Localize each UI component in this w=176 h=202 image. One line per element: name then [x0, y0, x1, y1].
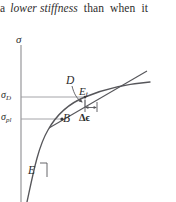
sigma-d-guide-line — [21, 97, 85, 108]
sigma-pl-label: σpl — [1, 112, 11, 124]
figure-page: alower stiffnessthanwhenit — [0, 0, 176, 202]
elastic-modulus-slope-triangle — [40, 163, 47, 177]
stress-strain-figure: σ σD σpl D Et B Δϵ E — [0, 24, 176, 202]
sigma-pl-subscript: pl — [6, 116, 11, 124]
elastic-modulus-label: E — [28, 165, 35, 177]
point-B-label: B — [63, 113, 70, 125]
delta-epsilon-label: Δϵ — [79, 113, 90, 124]
sigma-axis-label: σ — [16, 34, 21, 45]
delta-epsilon-arrowhead-right — [94, 106, 97, 109]
body-word-it: it — [141, 1, 148, 15]
tangent-modulus-base: E — [79, 85, 86, 97]
body-phrase-lower-stiffness: lower stiffness — [10, 1, 78, 15]
point-D-label: D — [66, 75, 74, 87]
body-word-a: a — [0, 1, 5, 15]
stress-strain-curve — [27, 82, 150, 202]
tangent-modulus-subscript: t — [86, 90, 88, 99]
sigma-d-label: σD — [1, 90, 11, 102]
body-word-than: than — [84, 1, 104, 15]
sigma-d-subscript: D — [6, 94, 11, 102]
body-text-line: alower stiffnessthanwhenit — [0, 1, 176, 17]
body-word-when: when — [110, 1, 135, 15]
tangent-modulus-label: Et — [79, 86, 88, 98]
